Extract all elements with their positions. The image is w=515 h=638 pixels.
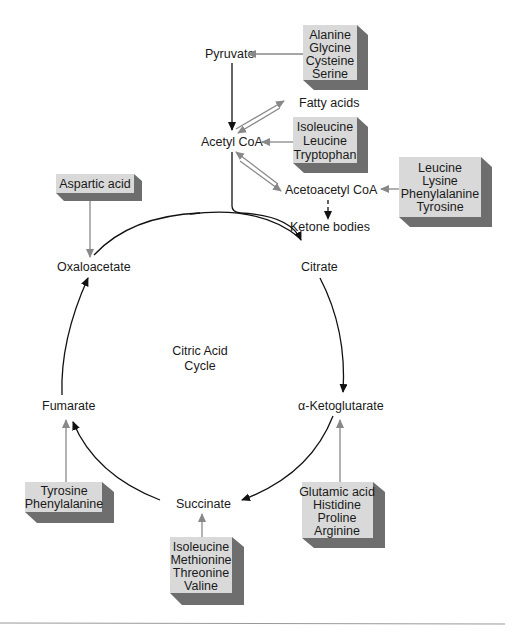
box-alanine-glycine-cysteine-serine: Alanine Glycine Cysteine Serine [303,25,368,90]
box-leucine-lysine-phenylalanine-tyrosine: Leucine Lysine Phenylalanine Tyrosine [399,157,492,227]
bottom-rule [0,623,505,624]
label-alpha-ketoglutarate: α-Ketoglutarate [298,399,384,413]
box-isoleucine-leucine-tryptophan: Isoleucine Leucine Tryptophan [293,117,368,173]
svg-text:Phenylalanine: Phenylalanine [401,187,480,201]
arrow-acetylcoa-to-fatty [236,101,284,129]
box-isoleucine-methionine-threonine-valine: Isoleucine Methionine Threonine Valine [170,537,244,605]
svg-text:Lysine: Lysine [422,174,458,188]
arc-oxaloacetate-top [94,213,200,255]
svg-text:Alanine: Alanine [309,28,351,42]
label-citrate: Citrate [301,260,338,274]
svg-text:Proline: Proline [318,511,357,525]
svg-text:Tryptophan: Tryptophan [294,148,357,162]
box-aspartic-acid: Aspartic acid [56,174,142,201]
svg-text:Glutamic acid: Glutamic acid [299,485,375,499]
svg-text:Phenylalanine: Phenylalanine [25,497,104,511]
svg-text:Leucine: Leucine [303,134,347,148]
line-acetylcoa-to-cycle [232,152,240,213]
label-fumarate: Fumarate [42,399,96,413]
label-citric-acid-cycle-1: Citric Acid [172,344,228,358]
arrow-fumarate-to-oxaloacetate [62,278,88,395]
svg-text:Isoleucine: Isoleucine [173,540,229,554]
label-citric-acid-cycle-2: Cycle [184,359,215,373]
svg-text:Arginine: Arginine [314,524,360,538]
svg-text:Threonine: Threonine [173,566,229,580]
svg-text:Valine: Valine [184,579,218,593]
svg-text:Tyrosine: Tyrosine [40,484,87,498]
arrow-citrate-to-akg [320,278,344,392]
label-acetyl-coa: Acetyl CoA [201,135,263,149]
arrow-acetylcoa-to-acetoacetyl [240,161,281,191]
svg-text:Glycine: Glycine [309,41,351,55]
svg-text:Histidine: Histidine [313,498,361,512]
arrow-fatty-to-acetylcoa [238,108,280,133]
label-fatty-acids: Fatty acids [299,96,359,110]
svg-text:Tyrosine: Tyrosine [416,200,463,214]
label-pyruvate: Pyruvate [205,47,254,61]
svg-text:Serine: Serine [312,67,348,81]
arrow-acetoacetyl-to-acetylcoa [236,152,278,184]
citric-acid-cycle-diagram: Alanine Glycine Cysteine Serine Isoleuci… [0,0,515,638]
label-ketone-bodies: Ketone bodies [290,220,370,234]
svg-text:Cysteine: Cysteine [306,54,355,68]
svg-text:Methionine: Methionine [170,553,231,567]
label-succinate: Succinate [176,497,231,511]
svg-text:Leucine: Leucine [418,161,462,175]
label-oxaloacetate: Oxaloacetate [57,260,131,274]
svg-text:Isoleucine: Isoleucine [297,120,353,134]
svg-text:Aspartic acid: Aspartic acid [59,177,131,191]
box-glutamic-histidine-proline-arginine: Glutamic acid Histidine Proline Arginine [299,482,385,548]
box-tyrosine-phenylalanine: Tyrosine Phenylalanine [25,482,114,523]
label-acetoacetyl-coa: Acetoacetyl CoA [285,183,378,197]
